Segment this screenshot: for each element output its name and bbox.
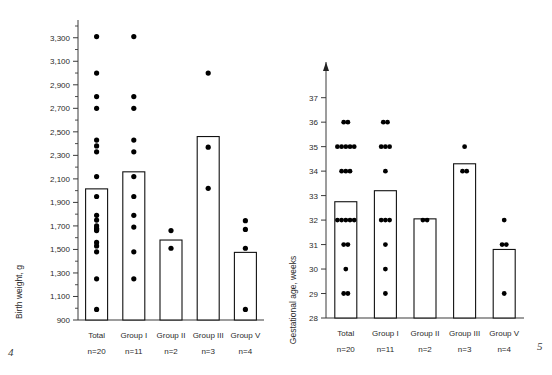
category-count-label: n=20 — [337, 345, 356, 354]
category-count-label: n=4 — [497, 345, 511, 354]
category-label: Group I — [120, 331, 147, 340]
y-axis-tick-label: 1,500 — [50, 245, 71, 254]
data-point — [462, 144, 467, 149]
data-point — [206, 186, 211, 191]
data-point — [243, 218, 248, 223]
y-axis-tick-label: 1,300 — [50, 269, 71, 278]
data-point — [131, 149, 136, 154]
category-count-label: n=20 — [88, 347, 107, 356]
data-point — [387, 144, 392, 149]
y-axis-tick-label: 37 — [309, 94, 318, 103]
category-count-label: n=2 — [164, 347, 178, 356]
data-point — [464, 169, 469, 174]
y-axis-arrow-icon — [323, 62, 329, 71]
data-point — [425, 218, 430, 223]
y-axis-tick-label: 1,700 — [50, 222, 71, 231]
data-point — [348, 218, 353, 223]
data-point — [94, 149, 99, 154]
y-axis-tick-label: 34 — [309, 167, 318, 176]
y-axis-tick-label: 2,300 — [50, 151, 71, 160]
data-point — [379, 144, 384, 149]
data-point — [346, 291, 351, 296]
figure-page: 9001,1001,3001,5001,7001,9002,1002,3002,… — [0, 0, 552, 375]
y-axis-tick-label: 3,100 — [50, 57, 71, 66]
gestational-age-plot: 28293031323334353637Gestational age, wee… — [278, 0, 552, 375]
data-point — [341, 291, 346, 296]
data-point — [383, 218, 388, 223]
category-count-label: n=3 — [458, 345, 472, 354]
y-axis-tick-label: 31 — [309, 241, 318, 250]
y-axis-tick-label: 2,900 — [50, 81, 71, 90]
data-point — [168, 228, 173, 233]
data-point — [94, 243, 99, 248]
data-point — [243, 246, 248, 251]
data-point — [94, 307, 99, 312]
data-point — [243, 307, 248, 312]
data-point — [94, 174, 99, 179]
category-count-label: n=3 — [201, 347, 215, 356]
data-point — [131, 94, 136, 99]
data-point — [352, 144, 357, 149]
data-point — [131, 249, 136, 254]
data-point — [383, 144, 388, 149]
y-axis-tick-label: 2,500 — [50, 128, 71, 137]
data-point — [343, 218, 348, 223]
birth-weight-plot: 9001,1001,3001,5001,7001,9002,1002,3002,… — [0, 0, 278, 375]
data-point — [341, 242, 346, 247]
y-axis-tick-label: 30 — [309, 265, 318, 274]
data-point — [206, 70, 211, 75]
data-point — [206, 145, 211, 150]
category-label: Group II — [411, 329, 440, 338]
data-point — [94, 143, 99, 148]
y-axis-tick-label: 3,300 — [50, 34, 71, 43]
data-point — [383, 169, 388, 174]
y-axis-tick-label: 2,100 — [50, 175, 71, 184]
data-point — [383, 291, 388, 296]
category-count-label: n=11 — [125, 347, 143, 356]
data-point — [94, 194, 99, 199]
data-point — [339, 218, 344, 223]
y-axis-tick-label: 29 — [309, 290, 318, 299]
data-point — [131, 194, 136, 199]
y-axis-tick-label: 1,100 — [50, 292, 71, 301]
data-point — [168, 246, 173, 251]
data-point — [460, 169, 465, 174]
data-point — [379, 218, 384, 223]
data-point — [131, 174, 136, 179]
data-point — [341, 120, 346, 125]
bar — [160, 240, 182, 320]
y-axis-tick-label: 35 — [309, 143, 318, 152]
data-point — [131, 137, 136, 142]
data-point — [343, 144, 348, 149]
data-point — [502, 218, 507, 223]
y-axis-tick-label: 32 — [309, 216, 318, 225]
data-point — [131, 224, 136, 229]
category-label: Group I — [372, 329, 399, 338]
data-point — [131, 34, 136, 39]
category-label: Group II — [157, 331, 186, 340]
data-point — [94, 137, 99, 142]
bar — [374, 191, 396, 318]
data-point — [94, 34, 99, 39]
chart-panel-gestational-age: 28293031323334353637Gestational age, wee… — [278, 0, 552, 375]
category-count-label: n=2 — [418, 345, 432, 354]
data-point — [383, 267, 388, 272]
category-label: Group III — [449, 329, 480, 338]
data-point — [339, 169, 344, 174]
y-axis-tick-label: 33 — [309, 192, 318, 201]
data-point — [343, 169, 348, 174]
bar — [493, 249, 515, 318]
y-axis-tick-label: 28 — [309, 314, 318, 323]
data-point — [348, 144, 353, 149]
data-point — [346, 120, 351, 125]
data-point — [94, 276, 99, 281]
data-point — [352, 218, 357, 223]
page-number-right: 5 — [537, 340, 543, 352]
bar — [197, 137, 219, 320]
data-point — [502, 291, 507, 296]
category-label: Group V — [231, 331, 261, 340]
category-label: Total — [337, 329, 354, 338]
y-axis-title: Birth weight, g — [14, 265, 24, 319]
data-point — [94, 249, 99, 254]
data-point — [94, 106, 99, 111]
